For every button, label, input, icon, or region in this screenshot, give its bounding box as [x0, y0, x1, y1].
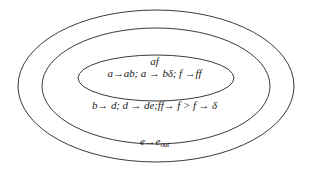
- middle-ellipse-rules: b→ d; d → de;ff→ f > f → δ: [0, 100, 309, 112]
- outer-rules-subscript: out: [160, 140, 169, 149]
- inner-ellipse-rules: a→ab; a → bδ; f →ff: [0, 68, 309, 80]
- outer-rules-base: e→e: [140, 135, 160, 147]
- nested-ellipse-diagram: af a→ab; a → bδ; f →ff b→ d; d → de;ff→ …: [0, 0, 309, 169]
- inner-ellipse-symbol: af: [0, 56, 309, 68]
- outer-ellipse-rules: e→eout: [0, 136, 309, 148]
- label-layer: af a→ab; a → bδ; f →ff b→ d; d → de;ff→ …: [0, 0, 309, 169]
